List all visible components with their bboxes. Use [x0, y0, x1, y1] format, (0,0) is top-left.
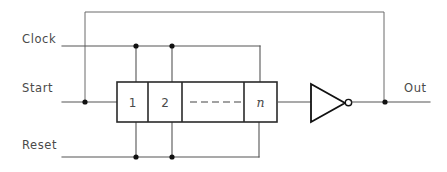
- junction-reset-tap-2: [169, 154, 174, 159]
- junction-output-tap: [382, 99, 387, 104]
- register-cell-n-label: n: [256, 95, 264, 110]
- junction-clock-tap-2: [169, 43, 174, 48]
- reset-wire: [62, 122, 259, 157]
- circuit-diagram: 1 2 n: [0, 0, 447, 172]
- register-cell-1-label: 1: [129, 96, 137, 110]
- register-cell-2-label: 2: [161, 96, 169, 110]
- clock-wire: [62, 46, 260, 82]
- inverter-bubble-icon: [345, 99, 351, 105]
- junction-start-tap: [82, 99, 87, 104]
- junction-clock-tap-1: [133, 43, 138, 48]
- junction-reset-tap-1: [133, 154, 138, 159]
- input-label-clock: Clock: [22, 32, 56, 46]
- input-label-reset: Reset: [22, 138, 57, 152]
- input-label-start: Start: [22, 81, 53, 95]
- inverter-gate: [311, 84, 352, 122]
- circuit-schematic-canvas: 1 2 n: [0, 0, 447, 172]
- output-label-out: Out: [404, 81, 427, 95]
